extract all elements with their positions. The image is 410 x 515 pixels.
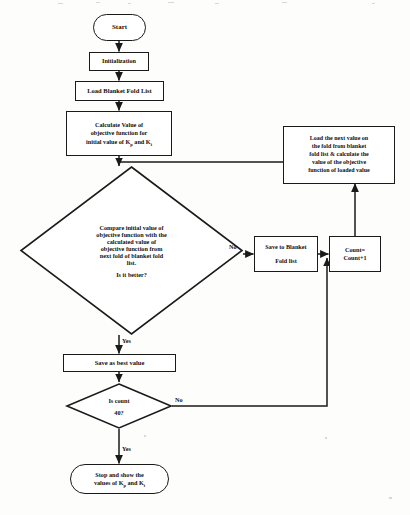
stop-line-1: Stop and show the [94,471,145,479]
stop-line-2: values of Kp and Ki [94,479,145,487]
calc-sub-i: i [151,142,152,147]
node-stop[interactable]: Stop and show the values of Kp and Ki [70,464,169,494]
edge-label-compare-yes: Yes [122,337,131,344]
node-calculate-initial-objective-label: Calculate Value of objective function fo… [83,120,155,147]
scan-artifact [372,3,375,4]
loadnext-line-3: fold list & calculate the [308,151,370,159]
scan-artifact [389,497,392,499]
stop-line-2-mid: and K [126,479,144,486]
node-save-to-blanket-label: Save to Blanket Fold list [262,242,309,265]
count-line-1: Count= [343,246,366,254]
calc-line-2: objective function for [86,129,152,137]
node-load-blanket-fold-list[interactable]: Load Blanket Fold List [75,81,164,101]
node-initialization-label: Initialization [99,56,139,66]
node-is-count-decision[interactable]: Is count 40? [66,383,172,429]
node-count-increment-label: Count= Count+1 [340,245,369,263]
node-save-as-best-value-label: Save as best value [92,358,148,369]
loadnext-line-4: value of the objective [308,159,370,167]
is-count-decision-shape [66,383,172,429]
scan-artifact [58,3,63,4]
scan-artifact [325,437,327,439]
scan-artifact [168,2,174,3]
scan-artifact [215,3,219,4]
node-load-blanket-fold-list-label: Load Blanket Fold List [84,86,154,97]
node-stop-label: Stop and show the values of Kp and Ki [91,470,148,488]
edge-label-count-yes: Yes [122,445,131,452]
scan-artifact [144,435,146,437]
node-count-increment[interactable]: Count= Count+1 [329,236,381,272]
node-save-as-best-value[interactable]: Save as best value [63,354,176,372]
calc-line-1: Calculate Value of [86,121,152,129]
count-line-2: Count+1 [343,254,366,262]
loadnext-line-1: Load the next value on [308,135,370,143]
node-calculate-initial-objective[interactable]: Calculate Value of objective function fo… [66,111,172,156]
stop-sub-i: i [144,483,145,488]
node-start[interactable]: Start [93,14,146,41]
node-compare-decision[interactable]: Compare initial value of objective funct… [20,166,243,335]
stop-line-2-pre: values of K [94,479,124,486]
scan-artifact [128,3,131,4]
node-start-label: Start [109,22,130,33]
node-load-next-value-label: Load the next value on the fold from bla… [305,134,373,176]
flowchart-canvas: Start Initialization Load Blanket Fold L… [0,0,410,515]
saveblanket-line-2: Fold list [265,257,306,265]
edge-label-compare-no: No [229,243,237,250]
node-initialization[interactable]: Initialization [89,52,149,71]
calc-line-3: initial value of Kp and Ki [86,138,152,146]
loadnext-line-5: function of loaded value [308,167,370,175]
calc-line-3-pre: initial value of K [86,138,130,145]
scan-artifact [96,2,100,3]
calc-line-3-mid: and K [133,138,151,145]
compare-decision-shape [20,166,243,335]
saveblanket-line-1: Save to Blanket [265,243,306,251]
node-save-to-blanket-fold-list[interactable]: Save to Blanket Fold list [254,236,318,272]
loadnext-line-2: the fold from blanket [308,143,370,151]
scan-artifact [282,2,287,3]
edge-label-count-no: No [175,396,183,403]
node-load-next-value[interactable]: Load the next value on the fold from bla… [283,126,395,184]
